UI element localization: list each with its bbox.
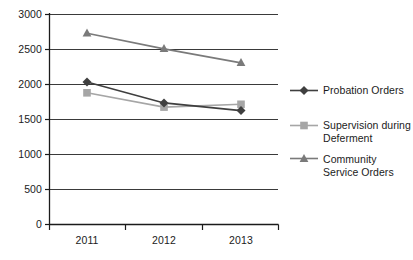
legend-item-community-service-orders: Community Service Orders (289, 153, 413, 179)
x-axis-label-2011: 2011 (62, 235, 112, 246)
marker-diamond-2011 (83, 77, 92, 86)
y-axis-label-0: 0 (0, 219, 42, 230)
x-axis-label-2013: 2013 (216, 235, 266, 246)
x-tick-marks (50, 225, 279, 231)
y-tick-marks (45, 15, 49, 225)
chart-legend: Probation Orders Supervision during Defe… (289, 84, 413, 190)
y-axis-label-2500: 2500 (0, 44, 42, 55)
marker-triangle-2011 (83, 28, 92, 36)
line-chart: 3000 2500 2000 1500 1000 500 0 2011 2012… (0, 0, 413, 260)
legend-label-community-service-orders: Community Service Orders (323, 153, 413, 178)
y-axis-label-1000: 1000 (0, 149, 42, 160)
y-axis-label-1500: 1500 (0, 114, 42, 125)
x-axis-label-2012: 2012 (139, 235, 189, 246)
markers-community-service-orders (83, 28, 246, 66)
legend-item-supervision-during-deferment: Supervision during Deferment (289, 119, 413, 145)
y-axis-label-3000: 3000 (0, 9, 42, 20)
y-axis-label-2000: 2000 (0, 79, 42, 90)
legend-label-supervision-during-deferment: Supervision during Deferment (323, 119, 413, 144)
legend-item-probation-orders: Probation Orders (289, 84, 413, 98)
legend-label-probation-orders: Probation Orders (323, 84, 413, 97)
marker-square-2011 (83, 89, 91, 97)
y-axis-label-500: 500 (0, 184, 42, 195)
